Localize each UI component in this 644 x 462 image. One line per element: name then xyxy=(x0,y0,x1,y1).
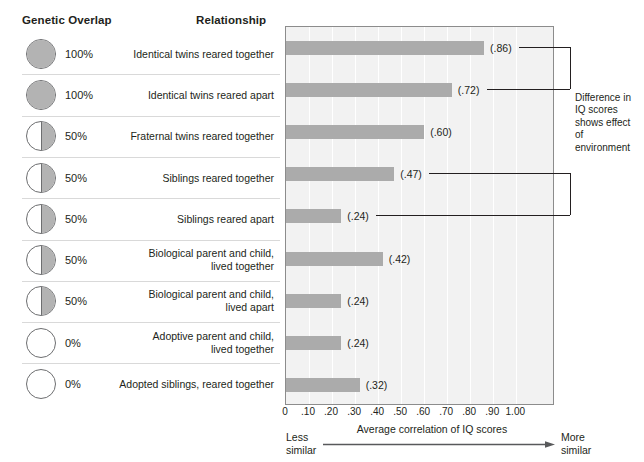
relationship-label: Fraternal twins reared together xyxy=(130,130,274,143)
genetic-overlap-percent: 50% xyxy=(65,295,87,307)
bar-value-label: (.42) xyxy=(389,253,411,265)
table-row: 50%Biological parent and child, lived to… xyxy=(22,240,280,281)
genetic-overlap-circle-icon xyxy=(26,245,56,275)
x-axis-tick: .20 xyxy=(324,406,338,417)
x-axis-caption: Average correlation of IQ scores xyxy=(322,423,542,435)
bracket-line xyxy=(376,215,570,216)
axis-label-more-similar: More similar xyxy=(561,431,591,456)
x-axis-tick: .90 xyxy=(485,406,499,417)
genetic-overlap-circle-icon xyxy=(26,286,56,316)
bar-value-label: (.24) xyxy=(347,295,369,307)
bar xyxy=(286,209,341,223)
table-row: 50%Siblings reared apart xyxy=(22,198,280,239)
relationship-table: 100%Identical twins reared together100%I… xyxy=(22,33,280,405)
bracket-line xyxy=(519,47,570,48)
table-row: 50%Fraternal twins reared together xyxy=(22,116,280,157)
header-relationship: Relationship xyxy=(196,14,266,26)
bar xyxy=(286,336,341,350)
genetic-overlap-percent: 50% xyxy=(65,130,87,142)
bracket-line xyxy=(570,47,571,89)
genetic-overlap-percent: 50% xyxy=(65,172,87,184)
genetic-overlap-percent: 50% xyxy=(65,213,87,225)
bar-value-label: (.86) xyxy=(490,42,512,54)
bracket-line xyxy=(429,173,570,174)
relationship-label: Biological parent and child, lived apart xyxy=(149,288,275,314)
bar xyxy=(286,125,424,139)
x-axis-tick-labels: 0.10.20.30.40.50.60.70.80.901.00 xyxy=(285,406,554,420)
genetic-overlap-percent: 100% xyxy=(65,89,93,101)
bar-value-label: (.72) xyxy=(458,84,480,96)
axis-label-less-similar: Less similar xyxy=(286,431,316,456)
x-axis-tick: 1.00 xyxy=(506,406,525,417)
x-axis-tick: .70 xyxy=(439,406,453,417)
x-axis-tick: .60 xyxy=(416,406,430,417)
x-axis-tick: .50 xyxy=(393,406,407,417)
x-axis-tick: .80 xyxy=(462,406,476,417)
bar-value-label: (.24) xyxy=(347,210,369,222)
bracket-line xyxy=(487,89,570,90)
table-row: 100%Identical twins reared together xyxy=(22,33,280,74)
genetic-overlap-percent: 0% xyxy=(65,337,81,349)
bar xyxy=(286,167,394,181)
annotation-note: Difference in IQ scores shows effect of … xyxy=(575,92,641,154)
genetic-overlap-circle-icon xyxy=(26,121,56,151)
x-axis-tick: .10 xyxy=(301,406,315,417)
relationship-label: Biological parent and child, lived toget… xyxy=(149,247,275,273)
relationship-label: Siblings reared together xyxy=(163,171,275,184)
bar xyxy=(286,252,383,266)
x-axis-tick: 0 xyxy=(282,406,288,417)
genetic-overlap-percent: 0% xyxy=(65,378,81,390)
bar-value-label: (.32) xyxy=(366,379,388,391)
axis-direction-arrow xyxy=(323,441,555,448)
genetic-overlap-circle-icon xyxy=(26,369,56,399)
header-genetic-overlap: Genetic Overlap xyxy=(22,14,112,26)
genetic-overlap-circle-icon xyxy=(26,80,56,110)
bar xyxy=(286,378,360,392)
bar xyxy=(286,83,452,97)
genetic-overlap-circle-icon xyxy=(26,328,56,358)
relationship-label: Identical twins reared together xyxy=(133,47,274,60)
table-row: 100%Identical twins reared apart xyxy=(22,74,280,115)
relationship-label: Adopted siblings, reared together xyxy=(119,378,274,391)
bar-value-label: (.60) xyxy=(430,126,452,138)
bracket-line xyxy=(570,173,571,215)
x-axis-tick: .40 xyxy=(370,406,384,417)
table-row: 0%Adoptive parent and child, lived toget… xyxy=(22,322,280,363)
bar xyxy=(286,294,341,308)
bar-value-label: (.47) xyxy=(400,168,422,180)
bar xyxy=(286,41,484,55)
relationship-label: Identical twins reared apart xyxy=(148,88,274,101)
table-row: 50%Siblings reared together xyxy=(22,157,280,198)
table-row: 0%Adopted siblings, reared together xyxy=(22,363,280,404)
genetic-overlap-circle-icon xyxy=(26,39,56,69)
genetic-overlap-percent: 50% xyxy=(65,254,87,266)
genetic-overlap-circle-icon xyxy=(26,204,56,234)
bar-value-label: (.24) xyxy=(347,337,369,349)
relationship-label: Adoptive parent and child, lived togethe… xyxy=(153,330,274,356)
genetic-overlap-percent: 100% xyxy=(65,48,93,60)
genetic-overlap-circle-icon xyxy=(26,163,56,193)
table-row: 50%Biological parent and child, lived ap… xyxy=(22,281,280,322)
relationship-label: Siblings reared apart xyxy=(177,212,274,225)
x-axis-tick: .30 xyxy=(347,406,361,417)
